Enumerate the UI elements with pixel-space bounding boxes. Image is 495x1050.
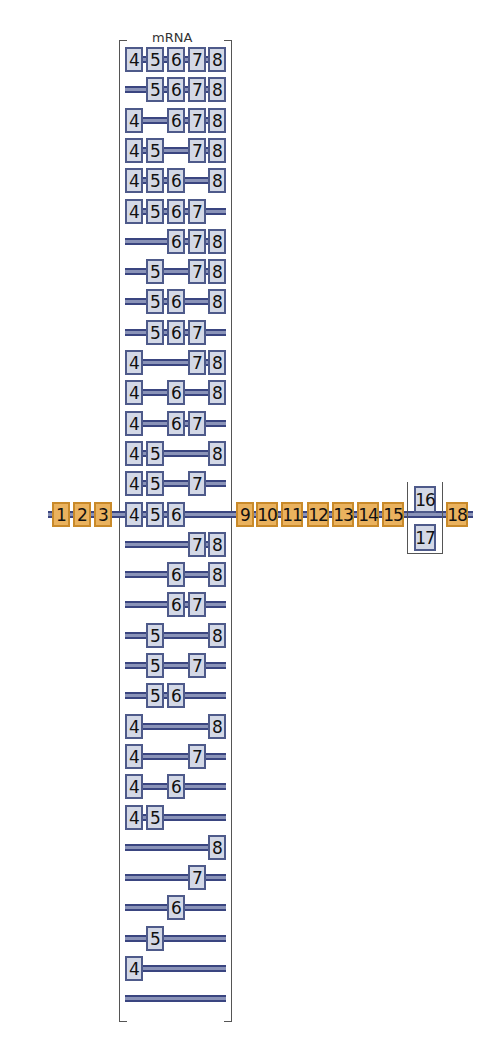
exon-6: 6: [167, 774, 185, 799]
exon-4: 4: [125, 502, 143, 527]
exon-7: 7: [188, 77, 206, 102]
exon-6: 6: [167, 380, 185, 405]
exon-5: 5: [146, 138, 164, 163]
exon-5: 5: [146, 168, 164, 193]
exon-8: 8: [208, 289, 226, 314]
exon-6: 6: [167, 592, 185, 617]
exon-5: 5: [146, 289, 164, 314]
exon-6: 6: [167, 683, 185, 708]
exon-7: 7: [188, 229, 206, 254]
intron-line: [125, 844, 212, 851]
exon-5: 5: [146, 683, 164, 708]
exon-4: 4: [125, 411, 143, 436]
exon-5: 5: [146, 502, 164, 527]
bracket-top-right: [224, 40, 232, 41]
exon-4: 4: [125, 956, 143, 981]
exon-6: 6: [167, 320, 185, 345]
exon-6: 6: [167, 895, 185, 920]
bracket-top-left: [119, 40, 127, 41]
exon-7: 7: [188, 471, 206, 496]
intron-line: [125, 935, 226, 942]
intron-line: [140, 965, 226, 972]
exon-4: 4: [125, 47, 143, 72]
exon-18: 18: [446, 502, 468, 527]
exon-7: 7: [188, 592, 206, 617]
exon-6: 6: [167, 229, 185, 254]
exon-2: 2: [73, 502, 91, 527]
exon-7: 7: [188, 320, 206, 345]
exon-8: 8: [208, 168, 226, 193]
exon-7: 7: [188, 532, 206, 557]
exon-8: 8: [208, 441, 226, 466]
exon-7: 7: [188, 411, 206, 436]
intron-line: [125, 632, 212, 639]
exon-8: 8: [208, 47, 226, 72]
exon-8: 8: [208, 229, 226, 254]
exon-6: 6: [167, 199, 185, 224]
exon-7: 7: [188, 47, 206, 72]
exon-8: 8: [208, 259, 226, 284]
exon-10: 10: [256, 502, 278, 527]
exon-4: 4: [125, 108, 143, 133]
exon-7: 7: [188, 199, 206, 224]
exon-7: 7: [188, 350, 206, 375]
exon-5: 5: [146, 259, 164, 284]
exon-4: 4: [125, 714, 143, 739]
exon-5: 5: [146, 441, 164, 466]
exon-7: 7: [188, 259, 206, 284]
exon-8: 8: [208, 562, 226, 587]
exon-4: 4: [125, 471, 143, 496]
exon-4: 4: [125, 199, 143, 224]
exon-15: 15: [382, 502, 404, 527]
bracket-bottom-right: [224, 1021, 232, 1022]
exon-6: 6: [167, 77, 185, 102]
exon-4: 4: [125, 138, 143, 163]
exon-4: 4: [125, 805, 143, 830]
exon-6: 6: [167, 168, 185, 193]
exon-7: 7: [188, 865, 206, 890]
exon-4: 4: [125, 168, 143, 193]
exon-12: 12: [307, 502, 329, 527]
intron-line: [125, 662, 226, 669]
exon-11: 11: [281, 502, 303, 527]
intron-line: [125, 874, 226, 881]
exon-5: 5: [146, 623, 164, 648]
exon-5: 5: [146, 926, 164, 951]
exon-5: 5: [146, 471, 164, 496]
intron-line: [140, 753, 226, 760]
exon-5: 5: [146, 805, 164, 830]
exon-6: 6: [167, 108, 185, 133]
exon-4: 4: [125, 774, 143, 799]
exon-7: 7: [188, 653, 206, 678]
exon-4: 4: [125, 380, 143, 405]
exon-6: 6: [167, 411, 185, 436]
exon-5: 5: [146, 320, 164, 345]
exon-8: 8: [208, 714, 226, 739]
exon-8: 8: [208, 108, 226, 133]
exon-3: 3: [94, 502, 112, 527]
exon-7: 7: [188, 138, 206, 163]
exon-6: 6: [167, 289, 185, 314]
exon-9: 9: [236, 502, 254, 527]
exon-5: 5: [146, 47, 164, 72]
exon-8: 8: [208, 623, 226, 648]
exon-5: 5: [146, 77, 164, 102]
exon-4: 4: [125, 441, 143, 466]
exon-13: 13: [332, 502, 354, 527]
exon-4: 4: [125, 744, 143, 769]
exon-5: 5: [146, 199, 164, 224]
exon-4: 4: [125, 350, 143, 375]
exon-14: 14: [357, 502, 379, 527]
exon-8: 8: [208, 380, 226, 405]
exon-7: 7: [188, 108, 206, 133]
exon-1: 1: [52, 502, 70, 527]
exon-6: 6: [167, 47, 185, 72]
exon-8: 8: [208, 77, 226, 102]
exon-8: 8: [208, 532, 226, 557]
exon-8: 8: [208, 835, 226, 860]
intron-line: [125, 995, 226, 1002]
exon-8: 8: [208, 138, 226, 163]
exon-6: 6: [167, 502, 185, 527]
exon-5: 5: [146, 653, 164, 678]
intron-line: [140, 723, 212, 730]
